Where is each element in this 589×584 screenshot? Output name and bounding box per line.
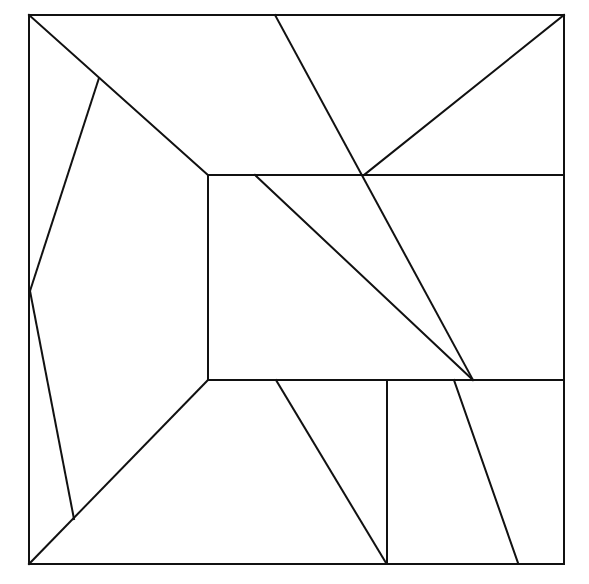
segment-group xyxy=(29,15,564,564)
segment-bottom-slant-right xyxy=(454,380,518,563)
segment-top-right-diag xyxy=(364,15,564,175)
segment-left-kite-upper xyxy=(30,78,99,291)
inner-rectangle xyxy=(208,175,564,380)
segment-diag-bottom-left xyxy=(29,380,208,564)
segment-left-kite-lower xyxy=(30,291,74,519)
diagram-canvas xyxy=(0,0,589,584)
segment-diag-top-left xyxy=(29,15,208,175)
segment-inner-diag xyxy=(255,175,473,380)
segment-long-slant xyxy=(275,15,473,380)
segment-bottom-slant-left xyxy=(276,380,386,563)
dissection-diagram xyxy=(0,0,589,584)
